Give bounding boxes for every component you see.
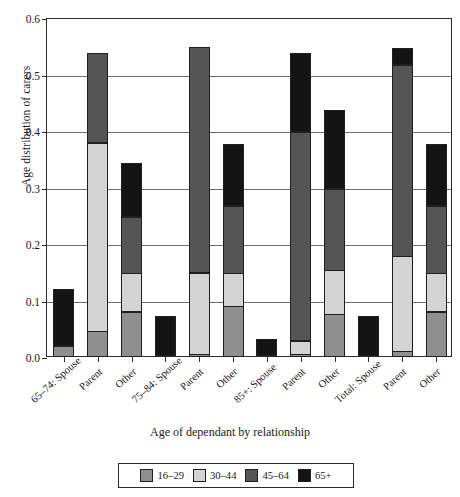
y-tick-label: 0.4 <box>26 126 40 138</box>
legend: 16–2930–4445–6465+ <box>118 463 354 488</box>
x-tick-mark <box>335 356 336 362</box>
bar-segment[interactable] <box>392 256 413 352</box>
y-tick-label: 0.2 <box>26 239 40 251</box>
bar-segment[interactable] <box>87 53 108 143</box>
legend-label: 65+ <box>315 470 332 481</box>
bar-segment[interactable] <box>324 110 345 189</box>
x-tick-mark <box>132 356 133 362</box>
bar-series-container <box>47 19 451 356</box>
y-tick-label: 0.0 <box>26 352 40 364</box>
legend-item[interactable]: 30–44 <box>193 469 236 482</box>
y-tick-label: 0.1 <box>26 296 40 308</box>
x-tick-mark <box>233 356 234 362</box>
bar-segment[interactable] <box>223 206 244 274</box>
bar-segment[interactable] <box>121 217 142 274</box>
y-tick-label: 0.6 <box>26 13 40 25</box>
legend-swatch <box>245 469 258 482</box>
bar-stack[interactable] <box>324 110 345 356</box>
bar-segment[interactable] <box>121 273 142 313</box>
bar-stack[interactable] <box>155 316 176 356</box>
y-tick-label: 0.5 <box>26 70 40 82</box>
bar-stack[interactable] <box>256 339 277 356</box>
x-tick-mark <box>301 356 302 362</box>
plot-area: 0.00.10.20.30.40.50.6 <box>46 18 452 357</box>
x-tick-mark <box>267 356 268 362</box>
bar-stack[interactable] <box>87 53 108 356</box>
bar-stack[interactable] <box>223 144 244 356</box>
bar-segment[interactable] <box>121 163 142 217</box>
bar-stack[interactable] <box>290 53 311 356</box>
chart-figure: Age distribution of carers 0.00.10.20.30… <box>0 0 460 497</box>
bar-segment[interactable] <box>53 289 74 346</box>
bar-segment[interactable] <box>426 206 447 274</box>
bar-segment[interactable] <box>256 339 277 356</box>
bar-segment[interactable] <box>223 273 244 307</box>
legend-item[interactable]: 65+ <box>298 469 332 482</box>
bar-segment[interactable] <box>392 48 413 65</box>
bar-segment[interactable] <box>324 314 345 356</box>
bar-segment[interactable] <box>121 312 142 357</box>
legend-label: 16–29 <box>157 470 183 481</box>
bar-segment[interactable] <box>290 132 311 341</box>
legend-item[interactable]: 16–29 <box>140 469 183 482</box>
y-tick-label: 0.3 <box>26 183 40 195</box>
bar-segment[interactable] <box>189 47 210 273</box>
bar-segment[interactable] <box>426 144 447 206</box>
bar-segment[interactable] <box>324 189 345 271</box>
y-tick-mark <box>42 358 47 359</box>
bar-segment[interactable] <box>223 144 244 206</box>
bar-segment[interactable] <box>290 341 311 355</box>
legend-label: 45–64 <box>262 470 288 481</box>
legend-item[interactable]: 45–64 <box>245 469 288 482</box>
bar-stack[interactable] <box>426 144 447 356</box>
bar-stack[interactable] <box>358 316 379 356</box>
x-tick-mark <box>402 356 403 362</box>
bar-segment[interactable] <box>324 270 345 315</box>
bar-segment[interactable] <box>189 273 210 355</box>
x-tick-mark <box>98 356 99 362</box>
bar-stack[interactable] <box>53 289 74 356</box>
bar-segment[interactable] <box>155 316 176 356</box>
bar-segment[interactable] <box>426 273 447 313</box>
bar-segment[interactable] <box>223 306 244 357</box>
bar-segment[interactable] <box>426 312 447 357</box>
bar-segment[interactable] <box>392 65 413 257</box>
bar-segment[interactable] <box>290 53 311 132</box>
bar-stack[interactable] <box>189 47 210 356</box>
x-axis-title: Age of dependant by relationship <box>0 425 460 440</box>
x-tick-mark <box>368 356 369 362</box>
x-tick-mark <box>436 356 437 362</box>
bar-segment[interactable] <box>358 316 379 356</box>
bar-segment[interactable] <box>87 331 108 356</box>
bar-stack[interactable] <box>392 48 413 356</box>
x-tick-mark <box>64 356 65 362</box>
legend-swatch <box>298 469 311 482</box>
x-tick-mark <box>165 356 166 362</box>
legend-swatch <box>140 469 153 482</box>
bar-stack[interactable] <box>121 163 142 356</box>
legend-label: 30–44 <box>210 470 236 481</box>
legend-swatch <box>193 469 206 482</box>
x-tick-mark <box>199 356 200 362</box>
bar-segment[interactable] <box>87 143 108 332</box>
